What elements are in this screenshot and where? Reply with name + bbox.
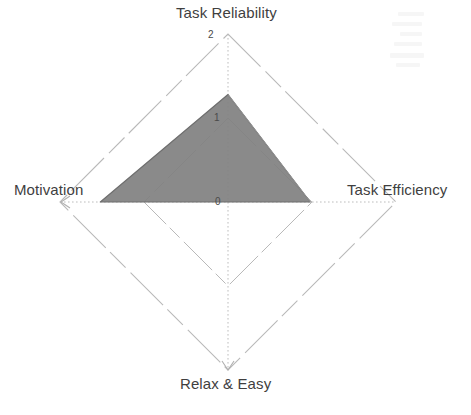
radial-tick-label-2: 2 <box>208 29 214 40</box>
axis-label-task-reliability: Task Reliability <box>176 4 277 21</box>
radial-tick-label-1: 1 <box>214 112 220 123</box>
radar-chart-plot <box>0 0 471 415</box>
axis-label-relax-and-easy: Relax & Easy <box>180 375 271 392</box>
radar-chart-container: Task Reliability Motivation Task Efficie… <box>0 0 471 415</box>
axis-label-task-efficiency: Task Efficiency <box>347 181 447 198</box>
axis-label-motivation: Motivation <box>14 181 83 198</box>
radial-tick-label-0: 0 <box>215 196 221 207</box>
data-series-area <box>100 95 310 203</box>
